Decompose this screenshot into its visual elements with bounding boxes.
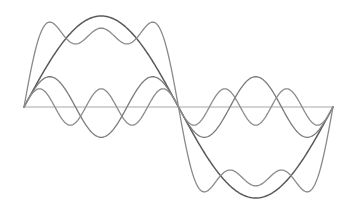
plot-canvas xyxy=(0,0,350,211)
fourier-series-diagram xyxy=(0,0,350,211)
